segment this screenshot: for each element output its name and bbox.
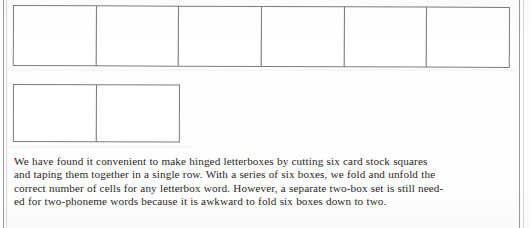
scanned-page: We have found it convenient to make hing…	[0, 0, 530, 228]
page-left-edge-rule-secondary	[6, 0, 7, 228]
letterbox-cell	[13, 5, 97, 66]
caption-line: and taping them together in a single row…	[14, 168, 512, 181]
letterbox-cell	[13, 84, 97, 142]
page-right-edge-rule	[519, 0, 520, 228]
caption-line: ed for two-phoneme words because it is a…	[14, 195, 512, 208]
caption-line: We have found it convenient to make hing…	[14, 155, 512, 168]
page-left-edge-rule	[3, 0, 4, 228]
caption-line: correct number of cells for any letterbo…	[14, 182, 512, 195]
letterbox-cell	[343, 6, 427, 67]
letterbox-cell	[426, 7, 510, 68]
scan-smudge	[10, 146, 190, 148]
page-right-edge-rule-secondary	[523, 0, 524, 228]
figure-caption: We have found it convenient to make hing…	[14, 155, 512, 208]
six-box-letterbox-strip	[13, 5, 510, 68]
letterbox-cell	[96, 84, 180, 142]
letterbox-cell	[261, 6, 345, 67]
letterbox-cell	[95, 5, 179, 66]
scan-smudge	[10, 69, 515, 71]
two-box-letterbox-strip	[13, 84, 180, 143]
letterbox-cell	[178, 6, 262, 67]
